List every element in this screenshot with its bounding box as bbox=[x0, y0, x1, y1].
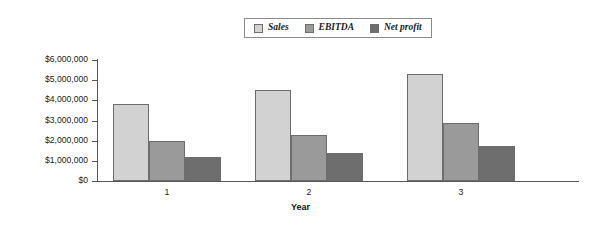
bar bbox=[149, 141, 185, 181]
y-axis-tick-label: $6,000,000 bbox=[45, 54, 88, 64]
bar bbox=[327, 153, 363, 181]
bar bbox=[479, 146, 515, 181]
legend-item[interactable]: Net profit bbox=[370, 23, 422, 33]
y-axis-tick-label: $3,000,000 bbox=[45, 115, 88, 125]
legend-swatch-icon bbox=[305, 24, 314, 33]
x-axis-category-label: 1 bbox=[165, 187, 170, 197]
legend-swatch-icon bbox=[254, 24, 263, 33]
legend-swatch-icon bbox=[370, 24, 379, 33]
x-axis-line bbox=[97, 181, 579, 182]
y-axis-tick-label: $2,000,000 bbox=[45, 135, 88, 145]
y-axis-tick-label: $0 bbox=[78, 175, 88, 185]
y-axis-tick-mark bbox=[92, 181, 97, 182]
x-axis-title: Year bbox=[0, 202, 601, 212]
y-axis-tick-label: $4,000,000 bbox=[45, 94, 88, 104]
bar bbox=[113, 104, 149, 181]
legend-item-label: Net profit bbox=[384, 23, 422, 33]
bar bbox=[407, 74, 443, 181]
legend-item-label: EBITDA bbox=[319, 23, 354, 33]
x-axis-category-label: 3 bbox=[459, 187, 464, 197]
plot-area bbox=[97, 60, 578, 181]
bar bbox=[291, 135, 327, 181]
x-axis-category-label: 2 bbox=[307, 187, 312, 197]
bar-chart: SalesEBITDANet profit $0$1,000,000$2,000… bbox=[0, 0, 601, 228]
chart-legend: SalesEBITDANet profit bbox=[244, 18, 432, 38]
legend-item[interactable]: Sales bbox=[254, 23, 289, 33]
y-axis-tick-label: $1,000,000 bbox=[45, 155, 88, 165]
bar bbox=[185, 157, 221, 181]
bar bbox=[255, 90, 291, 181]
legend-item-label: Sales bbox=[268, 23, 289, 33]
bar bbox=[443, 123, 479, 181]
legend-item[interactable]: EBITDA bbox=[305, 23, 354, 33]
y-axis-tick-label: $5,000,000 bbox=[45, 74, 88, 84]
